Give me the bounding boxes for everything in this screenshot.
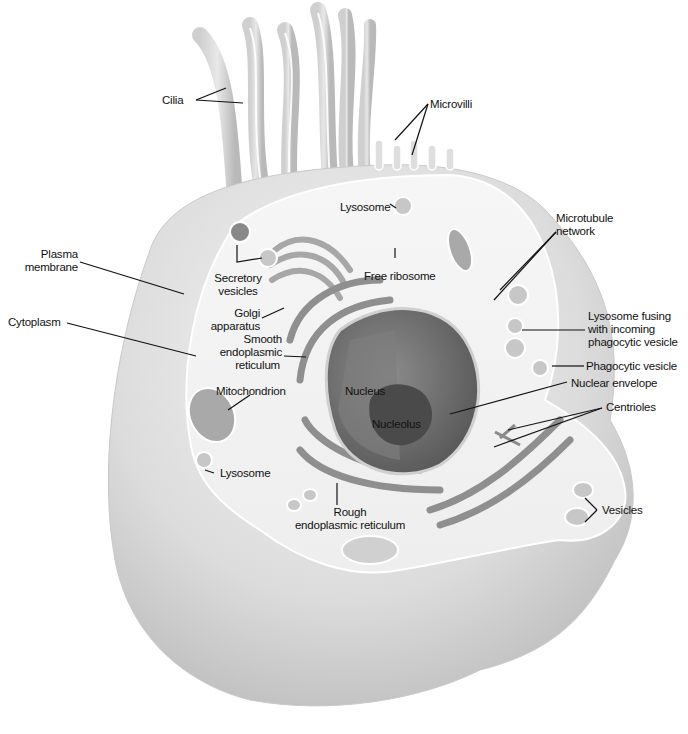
label-nuclear-envelope: Nuclear envelope [571, 377, 657, 390]
lower-mitochondrion [342, 536, 398, 564]
label-free-ribosome: Free ribosome [364, 270, 436, 283]
label-lysosome-fusing-1: Lysosome fusing [588, 310, 671, 323]
label-lysosome-fusing-2: with incoming [588, 323, 655, 336]
label-centrioles: Centrioles [606, 401, 656, 414]
label-cytoplasm: Cytoplasm [8, 316, 61, 329]
label-plasma-membrane-1: Plasma [24, 248, 78, 261]
label-secretory-vesicles-2: vesicles [208, 285, 268, 298]
label-rough-er-2: endoplasmic reticulum [280, 519, 420, 532]
cell-diagram: Cilia Microvilli Lysosome Microtubule ne… [0, 0, 688, 734]
label-secretory-vesicles-1: Secretory [208, 272, 268, 285]
label-smooth-er-3: reticulum [200, 359, 280, 372]
label-microvilli: Microvilli [430, 98, 472, 111]
label-nucleolus: Nucleolus [372, 418, 421, 431]
cell-illustration [0, 0, 688, 734]
label-phagocytic-vesicle: Phagocytic vesicle [586, 360, 677, 373]
label-lysosome-top: Lysosome [340, 201, 390, 214]
label-mitochondrion: Mitochondrion [216, 385, 286, 398]
label-lysosome-bottom: Lysosome [220, 467, 270, 480]
label-golgi-2: apparatus [200, 320, 260, 333]
label-nucleus: Nucleus [345, 385, 385, 398]
label-microtubule-network-2: network [556, 225, 595, 238]
label-vesicles: Vesicles [602, 504, 643, 517]
label-rough-er-1: Rough [290, 506, 410, 519]
label-smooth-er-1: Smooth [200, 333, 282, 346]
label-cilia: Cilia [162, 94, 183, 107]
label-microtubule-network-1: Microtubule [556, 212, 613, 225]
label-golgi-1: Golgi [210, 307, 260, 320]
label-lysosome-fusing-3: phagocytic vesicle [588, 336, 678, 349]
label-plasma-membrane-2: membrane [24, 261, 78, 274]
label-smooth-er-2: endoplasmic [200, 346, 282, 359]
